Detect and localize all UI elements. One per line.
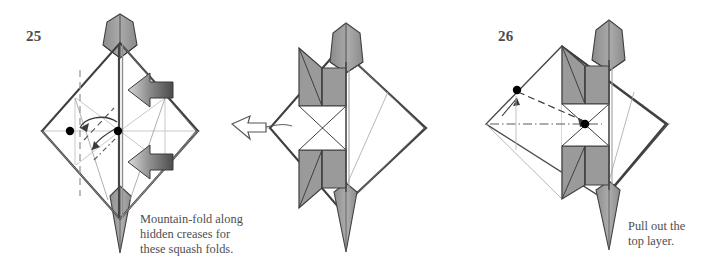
origami-step-panel-25: 25 bbox=[0, 0, 240, 273]
gray-flap-lower-right-26 bbox=[322, 150, 346, 188]
origami-step-panel-27: 27 bbox=[472, 0, 709, 273]
left-dot-25 bbox=[66, 127, 74, 135]
center-dot-27 bbox=[581, 120, 589, 128]
gray-flap-lower-left-26 bbox=[299, 150, 322, 208]
x-cross-creases-26 bbox=[299, 106, 346, 150]
gray-flap-upper-right-26 bbox=[322, 68, 346, 106]
bottom-spike-27 bbox=[596, 181, 620, 250]
curved-fold-arrow-25 bbox=[80, 117, 118, 150]
origami-instruction-page: 25 bbox=[0, 0, 709, 273]
origami-figure-26 bbox=[240, 0, 472, 273]
center-dot-25 bbox=[114, 127, 122, 135]
gray-flap-lower-right-27 bbox=[585, 146, 609, 185]
squash-arrow-lower-25 bbox=[128, 145, 173, 179]
gray-flap-lower-left-27 bbox=[562, 146, 585, 199]
bottom-spike-26 bbox=[334, 183, 357, 252]
gray-flap-upper-right-27 bbox=[585, 66, 609, 104]
upper-left-dot-27 bbox=[513, 86, 521, 94]
origami-step-panel-26: 26 bbox=[240, 0, 472, 273]
gray-flap-upper-left-26 bbox=[299, 48, 322, 106]
origami-figure-27 bbox=[472, 0, 709, 273]
squash-arrow-upper-25 bbox=[128, 73, 173, 107]
